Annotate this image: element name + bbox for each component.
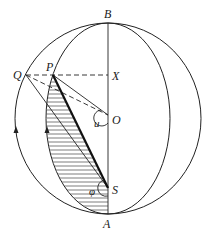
label-b: B [104,7,112,21]
label-x: X [111,69,120,83]
label-o: O [112,113,121,127]
arrow-up-icon [14,126,19,133]
sphere-diagram: B A Q P X O S u φ [0,0,212,234]
label-p: P [45,60,54,74]
label-u: u [94,117,100,129]
label-a: A [102,217,111,231]
label-phi: φ [89,185,95,197]
label-s: S [112,183,118,197]
shaded-region [46,75,108,214]
label-q: Q [13,68,22,82]
